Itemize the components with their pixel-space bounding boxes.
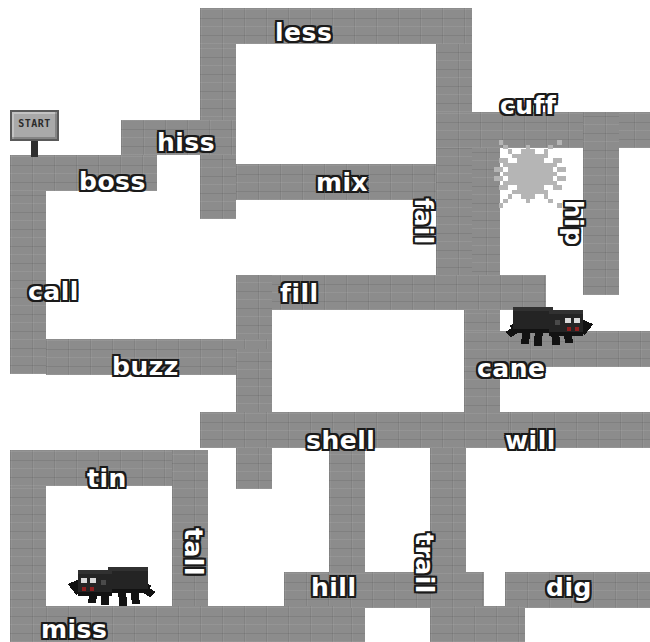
maze-word-fail: fail [411, 198, 436, 245]
maze-wall [436, 148, 472, 293]
maze-wall [464, 367, 500, 448]
maze-wall [436, 44, 472, 112]
spider-sprite [489, 296, 599, 352]
maze-wall [505, 572, 650, 608]
spider-sprite [62, 556, 172, 612]
maze-wall [10, 191, 46, 374]
start-marker: START [10, 110, 59, 160]
maze-wall [430, 606, 525, 642]
maze-canvas: lesscuffhissbossmixfailhipcallfillbuzzca… [0, 0, 650, 642]
maze-wall [510, 412, 650, 448]
maze-wall [430, 448, 466, 608]
maze-wall [121, 120, 236, 155]
maze-wall [10, 155, 157, 191]
maze-wall [583, 112, 619, 295]
maze-wall [200, 8, 472, 44]
cobweb-sprite [494, 140, 566, 212]
start-sign-label: START [10, 118, 59, 129]
